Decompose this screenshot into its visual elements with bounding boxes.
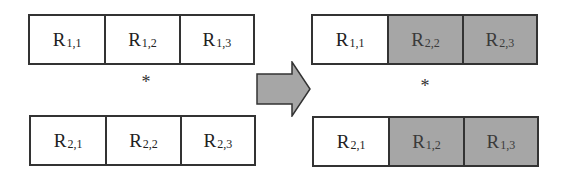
gene-label: R xyxy=(203,29,216,51)
gene-subscript: 1,1 xyxy=(67,36,82,51)
gene-cell: R2,3 xyxy=(180,117,254,164)
left-bottom-chromosome: R2,1 R2,2 R2,3 xyxy=(29,115,256,166)
gene-label: R xyxy=(128,29,141,51)
gene-label: R xyxy=(53,29,66,51)
gene-subscript: 1,3 xyxy=(216,36,231,51)
left-top-chromosome: R1,1 R1,2 R1,3 xyxy=(28,14,255,65)
gene-subscript: 1,1 xyxy=(350,36,365,51)
gene-cell: R1,1 xyxy=(30,16,104,63)
gene-subscript: 2,3 xyxy=(217,137,232,152)
right-top-chromosome: R1,1 R2,2 R2,3 xyxy=(311,14,538,65)
right-arrow-icon xyxy=(256,61,312,117)
gene-cell-swapped: R2,2 xyxy=(387,16,461,63)
gene-label: R xyxy=(129,130,142,152)
gene-subscript: 2,2 xyxy=(425,36,440,51)
gene-cell-swapped: R1,2 xyxy=(388,118,462,165)
gene-label: R xyxy=(486,29,499,51)
gene-cell-swapped: R1,3 xyxy=(463,118,537,165)
gene-cell: R2,2 xyxy=(105,117,179,164)
gene-cell: R2,1 xyxy=(314,118,388,165)
gene-label: R xyxy=(336,29,349,51)
gene-subscript: 2,3 xyxy=(499,36,514,51)
gene-label: R xyxy=(204,130,217,152)
crossover-operator: * xyxy=(136,72,156,93)
gene-label: R xyxy=(54,130,67,152)
gene-subscript: 2,1 xyxy=(68,137,83,152)
gene-subscript: 1,2 xyxy=(426,138,441,153)
gene-cell: R1,2 xyxy=(104,16,178,63)
gene-label: R xyxy=(412,131,425,153)
gene-cell-swapped: R2,3 xyxy=(462,16,536,63)
gene-label: R xyxy=(337,131,350,153)
gene-label: R xyxy=(411,29,424,51)
gene-cell: R1,3 xyxy=(179,16,253,63)
crossover-operator: * xyxy=(415,76,435,97)
gene-subscript: 1,3 xyxy=(500,138,515,153)
right-bottom-chromosome: R2,1 R1,2 R1,3 xyxy=(312,116,539,167)
gene-subscript: 1,2 xyxy=(142,36,157,51)
gene-subscript: 2,2 xyxy=(143,137,158,152)
gene-label: R xyxy=(487,131,500,153)
gene-subscript: 2,1 xyxy=(351,138,366,153)
gene-cell: R1,1 xyxy=(313,16,387,63)
gene-cell: R2,1 xyxy=(31,117,105,164)
